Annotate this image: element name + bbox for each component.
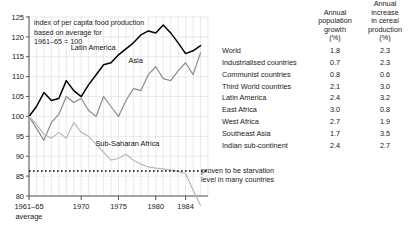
table-row: Industrialised countries0.72.3 xyxy=(222,57,410,69)
chart-series-group xyxy=(29,25,201,206)
starvation-note-line-1: proven to be starvation xyxy=(201,166,309,175)
x-tick-label: 1975 xyxy=(110,202,127,211)
y-axis-ticks: 80859095100105110115120125 xyxy=(11,13,29,201)
y-tick-label: 90 xyxy=(16,152,24,161)
col-header-region xyxy=(222,0,310,45)
table-row: Latin America2.43.2 xyxy=(222,92,410,104)
cell-cereal-increase: 3.0 xyxy=(360,80,410,92)
cell-region: World xyxy=(222,45,310,57)
cell-cereal-increase: 0.6 xyxy=(360,69,410,81)
table-row: Southeast Asia1.73.5 xyxy=(222,127,410,139)
cell-cereal-increase: 1.9 xyxy=(360,116,410,128)
table-row: West Africa2.71.9 xyxy=(222,116,410,128)
x-axis-sublabel-average: average xyxy=(15,212,42,221)
table-row: Communist countries0.80.6 xyxy=(222,69,410,81)
cell-region: West Africa xyxy=(222,116,310,128)
stats-table-body: World1.82.3Industrialised countries0.72.… xyxy=(222,45,410,151)
col-header-cereal-increase: Annual increase in cereal production (%) xyxy=(360,0,410,45)
cell-region: Southeast Asia xyxy=(222,127,310,139)
col1-head-unit: (%) xyxy=(310,34,360,43)
cell-population-growth: 2.4 xyxy=(310,92,360,104)
cell-population-growth: 3.0 xyxy=(310,104,360,116)
table-row: East Africa3.00.8 xyxy=(222,104,410,116)
table-row: Indian sub-continent2.42.7 xyxy=(222,139,410,151)
cell-region: Industrialised countries xyxy=(222,57,310,69)
x-axis-ticks: 1961–651970197519801984 xyxy=(14,196,194,211)
cell-region: Indian sub-continent xyxy=(222,139,310,151)
cell-cereal-increase: 3.2 xyxy=(360,92,410,104)
y-tick-label: 110 xyxy=(12,72,24,81)
cell-region: Third World countries xyxy=(222,80,310,92)
x-tick-label: 1961–65 xyxy=(14,202,43,211)
y-tick-label: 95 xyxy=(16,132,24,141)
y-tick-label: 120 xyxy=(11,33,24,42)
x-tick-label: 1980 xyxy=(147,202,164,211)
caption-line: based on average for xyxy=(34,28,103,37)
col2-head-unit: (%) xyxy=(360,34,410,43)
cell-cereal-increase: 2.3 xyxy=(360,45,410,57)
cell-region: East Africa xyxy=(222,104,310,116)
series-label-asia: Asia xyxy=(128,56,143,65)
table-header-row: Annual population growth (%) Annual incr… xyxy=(222,0,410,45)
table-row: World1.82.3 xyxy=(222,45,410,57)
cell-population-growth: 2.1 xyxy=(310,80,360,92)
y-tick-label: 80 xyxy=(16,192,24,201)
statistics-table-panel: Annual population growth (%) Annual incr… xyxy=(222,0,410,151)
y-tick-label: 105 xyxy=(11,92,24,101)
y-tick-label: 85 xyxy=(16,172,24,181)
y-tick-label: 100 xyxy=(11,112,24,121)
stats-table-head: Annual population growth (%) Annual incr… xyxy=(222,0,410,45)
cell-cereal-increase: 2.3 xyxy=(360,57,410,69)
cell-population-growth: 0.7 xyxy=(310,57,360,69)
table-row: Third World countries2.13.0 xyxy=(222,80,410,92)
x-tick-label: 1984 xyxy=(177,202,194,211)
y-tick-label: 125 xyxy=(11,13,24,22)
cell-population-growth: 2.7 xyxy=(310,116,360,128)
cell-cereal-increase: 3.5 xyxy=(360,127,410,139)
cell-region: Latin America xyxy=(222,92,310,104)
series-label-latin-america: Latin America xyxy=(71,43,117,52)
stats-table: Annual population growth (%) Annual incr… xyxy=(222,0,410,151)
line-chart-panel: 808590951001051101151201251961–651970197… xyxy=(0,0,215,241)
food-production-chart: 808590951001051101151201251961–651970197… xyxy=(0,0,215,241)
cell-population-growth: 1.8 xyxy=(310,45,360,57)
caption-line: index of per capita food production xyxy=(34,18,144,27)
col-header-population-growth: Annual population growth (%) xyxy=(310,0,360,45)
series-line-sub-saharan-africa xyxy=(29,116,201,205)
starvation-level-note: proven to be starvation level in many co… xyxy=(201,166,309,185)
cell-population-growth: 2.4 xyxy=(310,139,360,151)
cell-population-growth: 1.7 xyxy=(310,127,360,139)
series-label-sub-saharan-africa: Sub-Saharan Africa xyxy=(95,139,160,148)
y-tick-label: 115 xyxy=(12,52,24,61)
starvation-note-line-2: level in many countries xyxy=(201,175,309,184)
x-tick-label: 1970 xyxy=(73,202,90,211)
cell-population-growth: 0.8 xyxy=(310,69,360,81)
figure-root: 808590951001051101151201251961–651970197… xyxy=(0,0,410,241)
cell-region: Communist countries xyxy=(222,69,310,81)
cell-cereal-increase: 0.8 xyxy=(360,104,410,116)
cell-cereal-increase: 2.7 xyxy=(360,139,410,151)
